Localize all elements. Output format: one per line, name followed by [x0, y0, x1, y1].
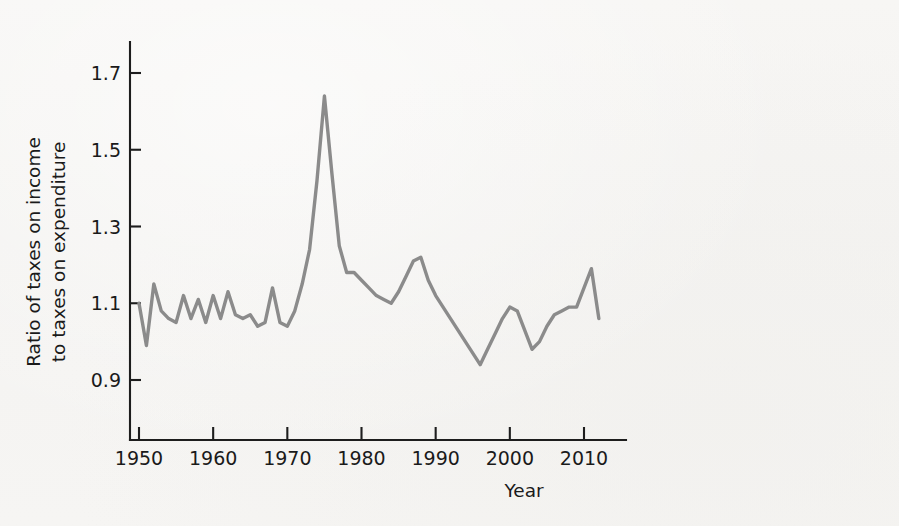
- y-tick-label: 0.9: [91, 369, 121, 391]
- x-axis-ticks: [139, 427, 584, 440]
- x-tick-label: 1980: [337, 447, 385, 469]
- y-tick-label: 1.3: [91, 216, 121, 238]
- data-series-line: [139, 96, 599, 365]
- x-axis-title: Year: [503, 480, 544, 501]
- y-axis-ticks: [130, 73, 141, 380]
- y-tick-label: 1.7: [91, 62, 121, 84]
- x-tick-label: 1950: [115, 447, 163, 469]
- x-axis-tick-labels: 1950196019701980199020002010: [115, 447, 608, 469]
- x-tick-label: 1970: [263, 447, 311, 469]
- x-tick-label: 2000: [486, 447, 534, 469]
- y-axis-title-line2: to taxes on expenditure: [48, 142, 69, 363]
- x-tick-label: 1960: [189, 447, 237, 469]
- y-axis-title-line1: Ratio of taxes on income: [23, 137, 44, 367]
- chart-figure: 0.91.11.31.51.7 195019601970198019902000…: [0, 0, 899, 526]
- line-chart-plot: 0.91.11.31.51.7 195019601970198019902000…: [0, 0, 899, 526]
- x-tick-label: 1990: [411, 447, 459, 469]
- y-axis-tick-labels: 0.91.11.31.51.7: [91, 62, 121, 391]
- y-tick-label: 1.1: [91, 292, 121, 314]
- x-tick-label: 2010: [560, 447, 608, 469]
- y-tick-label: 1.5: [91, 139, 121, 161]
